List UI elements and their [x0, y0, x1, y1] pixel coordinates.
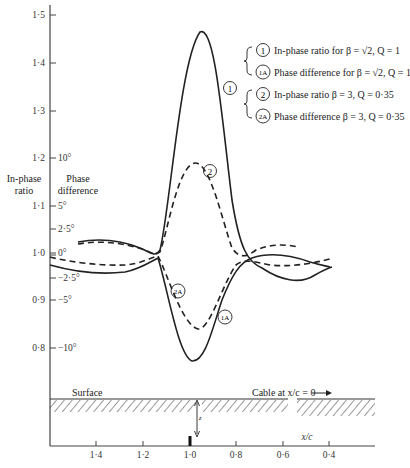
legend-text-2: In-phase ratio β = 3, Q = 0·35	[274, 89, 394, 100]
legend-tag-2: 2	[261, 90, 266, 100]
cable-label: Cable at x/c = 0	[252, 387, 315, 398]
x-tick-0-8: 0·8	[230, 450, 243, 460]
phase-tick-minus-5: −5°	[58, 295, 72, 305]
x-tick-1-0: 1·0	[184, 450, 197, 460]
ground-hatch-right	[297, 400, 375, 416]
phase-tick-minus-10: −10°	[58, 343, 77, 353]
phase-tick-0: 0°	[58, 248, 67, 258]
phase-tick-5: 5°	[58, 201, 67, 211]
ratio-axis-title-line2: ratio	[15, 185, 33, 196]
ratio-axis-title-line1: In-phase	[7, 173, 42, 184]
curve-2	[78, 163, 298, 256]
phase-tick-10: 10°	[58, 153, 72, 163]
legend-brace-1	[244, 47, 252, 75]
y-tick-1-1: 1·1	[32, 201, 45, 211]
legend-text-2a: Phase difference β = 3, Q = 0·35	[274, 111, 405, 122]
y-tick-1-0: 1·0	[32, 248, 45, 258]
curve-tag-1: 1	[228, 84, 233, 94]
legend-item-1a: 1A Phase difference for β = √2, Q = 1	[256, 65, 410, 79]
ground-hatch-left	[50, 400, 195, 412]
ground-hatch-mid	[202, 400, 288, 412]
legend-tag-2a: 2A	[259, 113, 268, 121]
x-axis-title: x/c	[300, 432, 313, 442]
depth-label: z	[198, 415, 202, 421]
phase-tick-minus-2-5: −2·5°	[58, 273, 80, 283]
legend: 1 In-phase ratio for β = √2, Q = 1 1A Ph…	[244, 44, 410, 124]
cable-position-marker	[189, 436, 192, 446]
curves	[50, 32, 332, 361]
legend-tag-1a: 1A	[259, 69, 268, 77]
legend-item-1: 1 In-phase ratio for β = √2, Q = 1	[257, 44, 401, 57]
curve-1a	[50, 255, 330, 361]
legend-item-2a: 2A Phase difference β = 3, Q = 0·35	[256, 109, 405, 123]
legend-brace-2	[244, 90, 252, 118]
curve-tag-2: 2	[208, 167, 213, 177]
y-tick-1-4: 1·4	[32, 58, 45, 68]
curve-2a	[50, 256, 330, 329]
y-axis: 1·5 1·4 1·3 1·2 1·1 1·0 0·9 0·8 10° 5° 2…	[7, 5, 99, 446]
chart-canvas: 1·5 1·4 1·3 1·2 1·1 1·0 0·9 0·8 10° 5° 2…	[0, 0, 410, 468]
surface-diagram: Surface Cable at x/c = 0 z	[50, 387, 375, 437]
x-tick-1-4: 1·4	[90, 450, 103, 460]
y-tick-0-8: 0·8	[32, 343, 45, 353]
y-tick-0-9: 0·9	[32, 295, 45, 305]
x-tick-1-2: 1·2	[137, 450, 150, 460]
phase-axis-title-line2: difference	[58, 185, 99, 196]
x-axis: 1·4 1·2 1·0 0·8 0·6 0·4 x/c	[50, 432, 375, 460]
y-tick-1-3: 1·3	[32, 106, 45, 116]
y-tick-1-2: 1·2	[32, 153, 45, 163]
curve-tag-2a: 2A	[174, 288, 183, 296]
legend-text-1a: Phase difference for β = √2, Q = 1	[274, 67, 410, 78]
y-tick-1-5: 1·5	[32, 10, 45, 20]
phase-axis-title-line1: Phase	[66, 173, 90, 184]
legend-tag-1: 1	[261, 46, 266, 56]
legend-item-2: 2 In-phase ratio β = 3, Q = 0·35	[257, 88, 394, 101]
x-tick-0-6: 0·6	[277, 450, 290, 460]
legend-text-1: In-phase ratio for β = √2, Q = 1	[274, 45, 400, 56]
surface-label: Surface	[72, 387, 103, 398]
curve-tag-1a: 1A	[221, 314, 230, 322]
phase-tick-2-5: 2·5°	[58, 224, 75, 234]
x-tick-0-4: 0·4	[323, 450, 336, 460]
